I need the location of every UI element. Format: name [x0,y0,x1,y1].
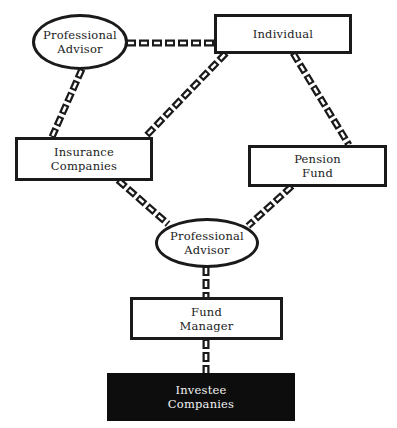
node-insurance-companies: Insurance Companies [15,137,153,181]
chain-individual-pension [293,53,349,145]
node-pension-fund: Pension Fund [248,145,387,187]
node-investee-companies: Investee Companies [107,373,295,421]
node-label: Pension Fund [294,152,341,180]
chain-pension-pa-mid [248,186,292,226]
chain-insurance-pa-mid [118,180,168,224]
node-individual: Individual [214,14,352,54]
node-label: Fund Manager [180,305,234,333]
node-professional-advisor-mid: Professional Advisor [155,218,259,268]
chain-pa-top-insurance [52,69,82,137]
chain-individual-insurance [145,53,226,137]
node-label: Investee Companies [168,383,234,411]
node-professional-advisor-top: Professional Advisor [32,14,128,70]
node-label: Professional Advisor [43,28,117,56]
node-label: Individual [253,27,313,41]
node-fund-manager: Fund Manager [130,297,283,340]
node-label: Insurance Companies [51,145,117,173]
node-label: Professional Advisor [170,229,244,257]
